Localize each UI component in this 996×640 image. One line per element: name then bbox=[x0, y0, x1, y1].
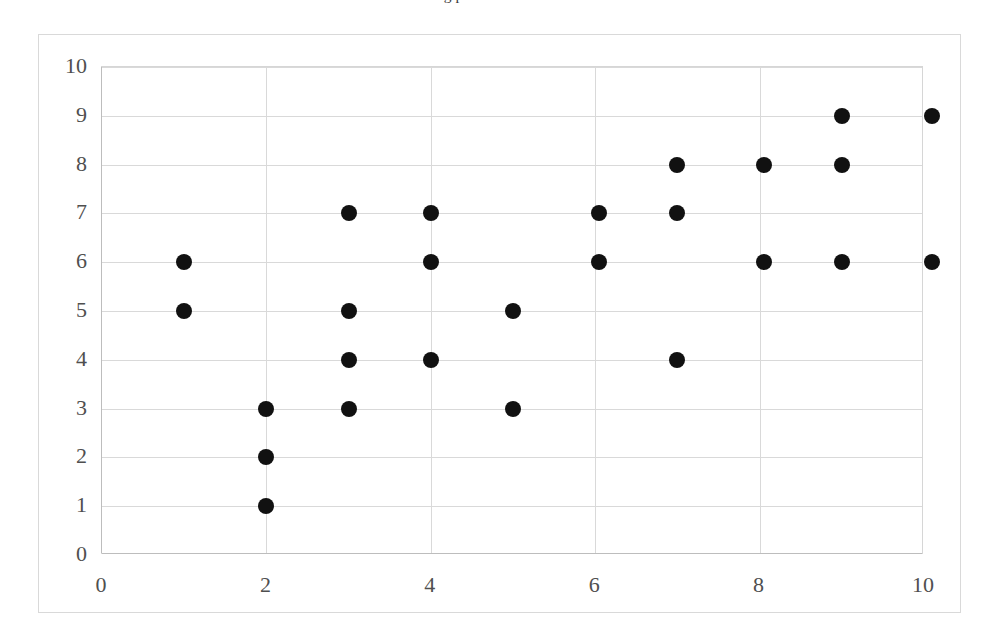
data-point bbox=[423, 352, 439, 368]
data-point bbox=[341, 352, 357, 368]
y-tick-label: 0 bbox=[43, 543, 87, 565]
x-tick-label: 4 bbox=[400, 574, 460, 596]
data-point bbox=[924, 108, 940, 124]
data-point bbox=[834, 108, 850, 124]
y-tick-label: 9 bbox=[43, 104, 87, 126]
data-point bbox=[756, 254, 772, 270]
data-point bbox=[669, 352, 685, 368]
data-point bbox=[341, 303, 357, 319]
gridline-horizontal bbox=[102, 360, 922, 361]
gridline-horizontal bbox=[102, 67, 922, 68]
y-tick-label: 10 bbox=[43, 55, 87, 77]
data-point bbox=[341, 401, 357, 417]
data-point bbox=[176, 254, 192, 270]
gridline-horizontal bbox=[102, 457, 922, 458]
gridline-vertical bbox=[431, 67, 432, 553]
x-tick-label: 6 bbox=[564, 574, 624, 596]
y-tick-label: 4 bbox=[43, 348, 87, 370]
data-point bbox=[505, 401, 521, 417]
data-point bbox=[591, 205, 607, 221]
y-tick-label: 2 bbox=[43, 445, 87, 467]
data-point bbox=[669, 157, 685, 173]
scatter-chart: 012345678910 0246810 bbox=[39, 35, 962, 614]
gridline-vertical bbox=[760, 67, 761, 553]
plot-area bbox=[101, 66, 923, 554]
data-point bbox=[258, 498, 274, 514]
x-axis-line bbox=[102, 553, 922, 554]
y-axis-line bbox=[101, 67, 102, 553]
data-point bbox=[423, 254, 439, 270]
data-point bbox=[505, 303, 521, 319]
gridline-vertical bbox=[266, 67, 267, 553]
cropped-text-line: g p nt set as data. bbox=[0, 0, 996, 4]
gridline-vertical bbox=[595, 67, 596, 553]
gridline-horizontal bbox=[102, 506, 922, 507]
data-point bbox=[258, 401, 274, 417]
gridline-horizontal bbox=[102, 116, 922, 117]
y-tick-label: 3 bbox=[43, 397, 87, 419]
cropped-text-above-figure: g p nt set as data. bbox=[0, 0, 996, 16]
data-point bbox=[756, 157, 772, 173]
x-tick-label: 2 bbox=[235, 574, 295, 596]
gridline-horizontal bbox=[102, 213, 922, 214]
gridline-horizontal bbox=[102, 262, 922, 263]
data-point bbox=[669, 205, 685, 221]
x-tick-label: 8 bbox=[729, 574, 789, 596]
y-tick-label: 1 bbox=[43, 494, 87, 516]
data-point bbox=[924, 254, 940, 270]
data-point bbox=[423, 205, 439, 221]
data-point bbox=[591, 254, 607, 270]
gridline-horizontal bbox=[102, 165, 922, 166]
y-tick-label: 7 bbox=[43, 201, 87, 223]
x-tick-label: 0 bbox=[71, 574, 131, 596]
figure-frame: 012345678910 0246810 bbox=[38, 34, 961, 613]
data-point bbox=[258, 449, 274, 465]
y-tick-label: 5 bbox=[43, 299, 87, 321]
data-point bbox=[341, 205, 357, 221]
data-point bbox=[834, 254, 850, 270]
x-tick-label: 10 bbox=[893, 574, 953, 596]
data-point bbox=[176, 303, 192, 319]
data-point bbox=[834, 157, 850, 173]
y-tick-label: 8 bbox=[43, 153, 87, 175]
y-tick-label: 6 bbox=[43, 250, 87, 272]
